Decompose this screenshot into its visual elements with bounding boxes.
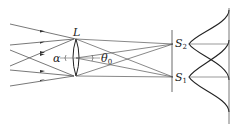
theta-label-text: θ: [101, 52, 108, 65]
theta-label: θ0: [101, 53, 112, 66]
lens-label: L: [73, 27, 80, 38]
s1-label: S1: [175, 72, 187, 85]
s1-label-text: S: [175, 71, 183, 84]
theta-subscript: 0: [108, 58, 112, 66]
alpha-label: α: [53, 53, 60, 64]
optics-diagram: [0, 0, 239, 130]
diagram-canvas: L α θ0 S2 S1: [0, 0, 239, 130]
alpha-label-text: α: [53, 52, 60, 65]
lens-label-text: L: [73, 26, 80, 39]
s2-label: S2: [175, 38, 187, 51]
intensity-curves: [189, 10, 229, 112]
s2-label-text: S: [175, 37, 183, 50]
s1-subscript: 1: [183, 77, 187, 85]
s2-subscript: 2: [183, 43, 187, 51]
incoming-rays: [10, 24, 76, 86]
